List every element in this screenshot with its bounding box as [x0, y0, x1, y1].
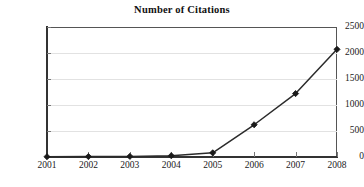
x-tick-mark	[171, 152, 172, 157]
x-tick-mark	[130, 152, 131, 157]
y-tick-label: 500	[322, 126, 364, 136]
chart-title: Number of Citations	[0, 4, 364, 15]
x-tick-mark	[296, 152, 297, 157]
x-tick-label: 2008	[317, 160, 357, 170]
x-tick-label: 2003	[110, 160, 150, 170]
y-tick-mark	[47, 105, 51, 106]
y-tick-label: 2000	[322, 48, 364, 58]
x-tick-mark	[254, 152, 255, 157]
x-tick-mark	[213, 152, 214, 157]
x-tick-label: 2006	[234, 160, 274, 170]
y-tick-label: 1000	[322, 100, 364, 110]
y-tick-mark	[47, 131, 51, 132]
x-axis-line	[46, 156, 338, 158]
y-tick-label: 1500	[322, 74, 364, 84]
y-tick-mark	[47, 79, 51, 80]
gridline	[47, 79, 337, 80]
x-tick-label: 2005	[193, 160, 233, 170]
y-tick-mark	[47, 53, 51, 54]
x-tick-mark	[337, 152, 338, 157]
plot-area	[47, 27, 337, 157]
gridline	[47, 105, 337, 106]
citations-line-chart: Number of Citations 25002000150010005000…	[0, 0, 364, 187]
gridline	[47, 131, 337, 132]
x-tick-label: 2004	[151, 160, 191, 170]
y-tick-label: 2500	[322, 22, 364, 32]
x-tick-label: 2007	[276, 160, 316, 170]
y-axis-line	[46, 26, 48, 158]
x-tick-label: 2002	[68, 160, 108, 170]
x-tick-label: 2001	[27, 160, 67, 170]
x-tick-mark	[88, 152, 89, 157]
gridline	[47, 53, 337, 54]
y-tick-mark	[47, 27, 51, 28]
